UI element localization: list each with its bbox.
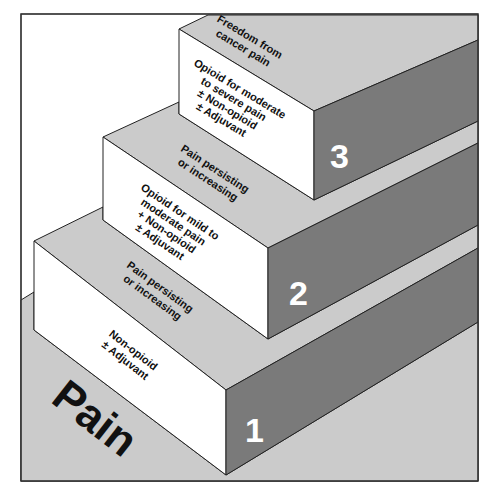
step-3-number: 3: [330, 137, 349, 175]
step-1-number: 1: [245, 411, 264, 449]
step-2-number: 2: [289, 274, 308, 312]
analgesic-ladder-diagram: 3 2 1 Freedom from cancer pain Opioid fo…: [0, 0, 500, 495]
